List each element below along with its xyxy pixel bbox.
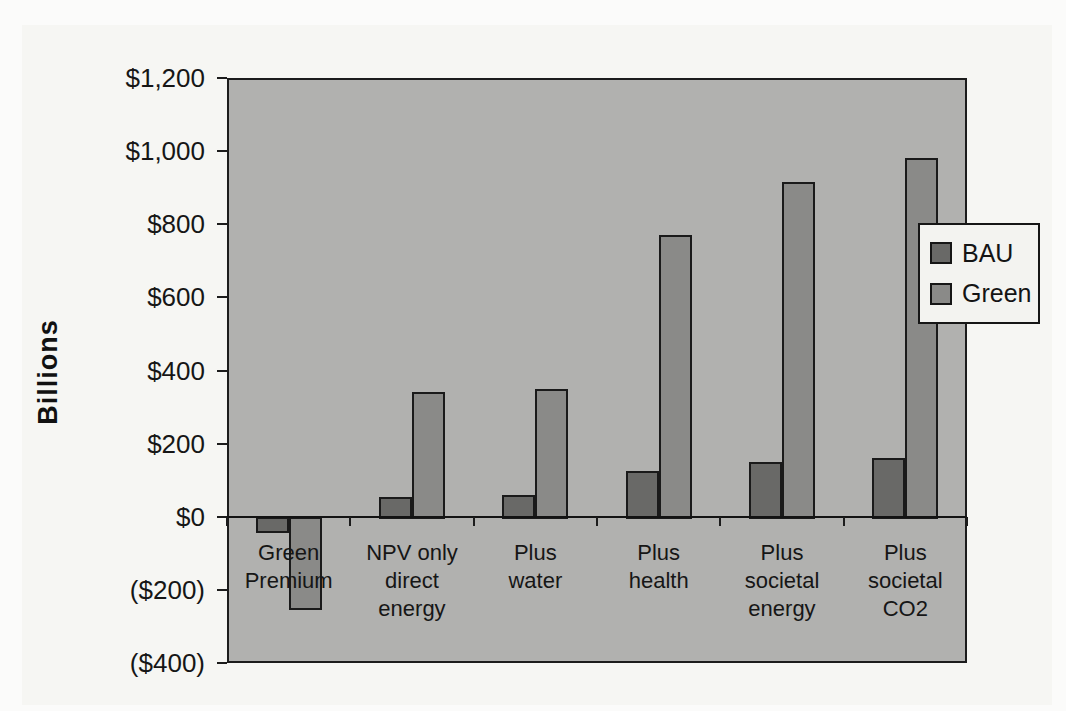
legend-swatch-bau	[930, 242, 952, 264]
category-label-line: societal	[720, 567, 843, 595]
category-label-1: GreenPremium	[227, 539, 350, 595]
category-label-line: water	[474, 567, 597, 595]
bar-green-4	[659, 235, 692, 519]
legend-label: Green	[962, 279, 1031, 308]
bar-green-3	[535, 389, 568, 519]
x-tick-mark	[596, 517, 598, 526]
category-label-line: direct	[350, 567, 473, 595]
x-tick-mark	[843, 517, 845, 526]
category-label-2: NPV onlydirectenergy	[350, 539, 473, 623]
category-label-5: Plussocietalenergy	[720, 539, 843, 623]
category-label-line: health	[597, 567, 720, 595]
y-tick-mark	[217, 150, 227, 152]
x-tick-mark	[966, 517, 968, 526]
legend-label: BAU	[962, 239, 1013, 268]
bar-bau-6	[872, 458, 905, 519]
category-label-4: Plushealth	[597, 539, 720, 595]
x-tick-mark	[719, 517, 721, 526]
bar-green-5	[782, 182, 815, 519]
x-tick-mark	[349, 517, 351, 526]
category-label-6: PlussocietalCO2	[844, 539, 967, 623]
y-tick-mark	[217, 296, 227, 298]
category-label-line: Plus	[720, 539, 843, 567]
legend: BAUGreen	[918, 223, 1040, 324]
bar-green-6	[905, 158, 938, 518]
bar-bau-1	[256, 517, 289, 534]
category-label-line: energy	[350, 595, 473, 623]
x-tick-mark	[473, 517, 475, 526]
category-label-3: Pluswater	[474, 539, 597, 595]
category-label-line: Plus	[844, 539, 967, 567]
y-tick-label: ($200)	[55, 575, 205, 605]
category-label-line: societal	[844, 567, 967, 595]
y-tick-mark	[217, 662, 227, 664]
bar-bau-4	[626, 471, 659, 519]
y-tick-mark	[217, 370, 227, 372]
category-label-line: Plus	[597, 539, 720, 567]
legend-swatch-green	[930, 283, 952, 305]
y-tick-label: $200	[55, 429, 205, 459]
y-tick-label: $1,200	[55, 63, 205, 93]
y-tick-mark	[217, 589, 227, 591]
y-tick-label: $400	[55, 356, 205, 386]
y-tick-label: ($400)	[55, 648, 205, 678]
legend-item-bau: BAU	[930, 239, 1028, 268]
bar-green-2	[412, 392, 445, 518]
y-tick-label: $600	[55, 282, 205, 312]
y-tick-label: $1,000	[55, 136, 205, 166]
chart-page: Billions $1,200$1,000$800$600$400$200$0(…	[0, 0, 1066, 711]
x-tick-mark	[226, 517, 228, 526]
y-tick-label: $800	[55, 209, 205, 239]
legend-item-green: Green	[930, 279, 1028, 308]
category-label-line: Premium	[227, 567, 350, 595]
bar-bau-5	[749, 462, 782, 519]
category-label-line: energy	[720, 595, 843, 623]
category-label-line: Plus	[474, 539, 597, 567]
y-tick-label: $0	[55, 502, 205, 532]
category-label-line: Green	[227, 539, 350, 567]
y-tick-mark	[217, 77, 227, 79]
category-label-line: NPV only	[350, 539, 473, 567]
category-label-line: CO2	[844, 595, 967, 623]
y-tick-mark	[217, 443, 227, 445]
y-tick-mark	[217, 223, 227, 225]
